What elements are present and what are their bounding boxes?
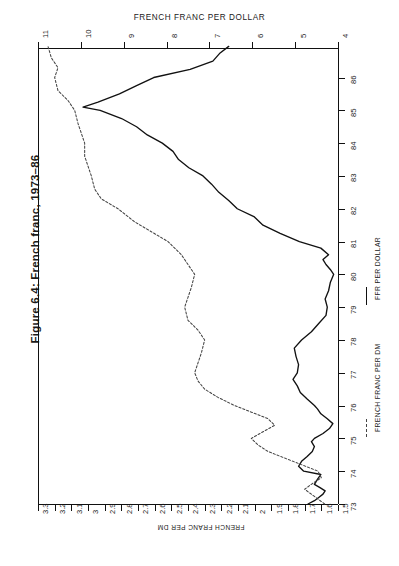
series-ff-per-dm <box>48 46 325 504</box>
series-canvas <box>0 0 399 566</box>
series-ffr-per-dollar <box>83 46 334 504</box>
figure-container: Figure 6.4: French franc, 1973–86 FRENCH… <box>0 0 399 566</box>
legend-swatch-solid <box>366 287 367 305</box>
legend-label-ff-per-dm: FRENCH FRANC PER DM <box>374 343 381 432</box>
legend-swatch-dashed <box>366 419 367 437</box>
legend-label-ffr-per-dollar: FFR PER DOLLAR <box>374 237 381 300</box>
